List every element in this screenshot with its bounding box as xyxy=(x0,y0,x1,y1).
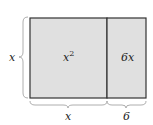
bottom-brace-x xyxy=(30,101,107,108)
side-label: x xyxy=(9,51,16,64)
bottom-label-x: x xyxy=(65,110,72,123)
bottom-label-6: 6 xyxy=(123,110,130,123)
area-model-diagram: x x2 6x x 6 xyxy=(0,0,153,125)
region-label-6x: 6x xyxy=(121,51,135,64)
left-brace xyxy=(19,17,28,98)
bottom-brace-6 xyxy=(107,101,146,108)
